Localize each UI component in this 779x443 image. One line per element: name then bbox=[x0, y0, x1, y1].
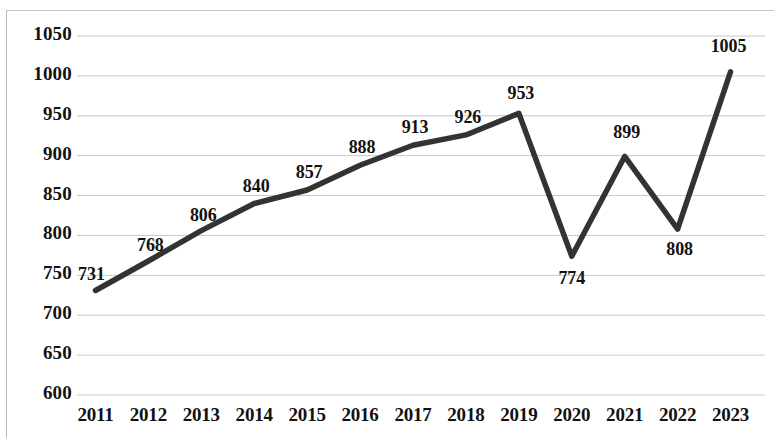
y-axis-tick-label: 600 bbox=[8, 382, 72, 404]
line-chart: 60065070075080085090095010001050 2011201… bbox=[0, 0, 779, 443]
data-point-label: 731 bbox=[63, 264, 119, 285]
y-axis-tick-label: 750 bbox=[8, 262, 72, 284]
y-axis-tick-label: 700 bbox=[8, 302, 72, 324]
y-axis-tick-label: 800 bbox=[8, 222, 72, 244]
y-axis-tick-label: 950 bbox=[8, 103, 72, 125]
x-axis-tick-label: 2016 bbox=[332, 404, 388, 426]
data-point-label: 899 bbox=[599, 122, 655, 143]
x-axis-tick-label: 2017 bbox=[385, 404, 441, 426]
data-point-label: 1005 bbox=[701, 36, 757, 57]
y-axis-tick-label: 650 bbox=[8, 342, 72, 364]
data-line bbox=[95, 72, 730, 291]
data-point-label: 888 bbox=[334, 137, 390, 158]
y-axis-tick-label: 850 bbox=[8, 183, 72, 205]
x-axis-tick-label: 2013 bbox=[173, 404, 229, 426]
x-axis-tick-label: 2011 bbox=[67, 404, 123, 426]
y-axis-tick-label: 900 bbox=[8, 143, 72, 165]
x-axis-tick-label: 2023 bbox=[703, 404, 759, 426]
x-axis-tick-label: 2014 bbox=[226, 404, 282, 426]
data-point-label: 808 bbox=[652, 239, 708, 260]
y-axis-tick-label: 1050 bbox=[8, 23, 72, 45]
data-point-label: 840 bbox=[228, 176, 284, 197]
data-point-label: 774 bbox=[544, 268, 600, 289]
x-axis-tick-label: 2018 bbox=[438, 404, 494, 426]
data-point-label: 806 bbox=[175, 205, 231, 226]
x-axis-tick-label: 2019 bbox=[491, 404, 547, 426]
x-axis-tick-label: 2015 bbox=[279, 404, 335, 426]
plot-area bbox=[0, 0, 779, 443]
x-axis-tick-label: 2021 bbox=[597, 404, 653, 426]
x-axis-tick-label: 2022 bbox=[650, 404, 706, 426]
y-axis-tick-label: 1000 bbox=[8, 63, 72, 85]
data-point-label: 768 bbox=[122, 235, 178, 256]
data-point-label: 857 bbox=[281, 162, 337, 183]
x-axis-tick-label: 2012 bbox=[120, 404, 176, 426]
data-point-label: 926 bbox=[440, 107, 496, 128]
data-point-label: 913 bbox=[387, 117, 443, 138]
x-axis-tick-label: 2020 bbox=[544, 404, 600, 426]
data-point-label: 953 bbox=[493, 83, 549, 104]
series-group bbox=[95, 72, 730, 291]
